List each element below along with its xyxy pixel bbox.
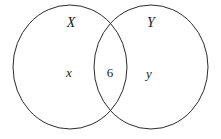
region-label-intersection: 6 <box>107 66 114 79</box>
set-label-y: Y <box>147 16 155 30</box>
set-label-x: X <box>67 16 76 30</box>
region-label-x-only: x <box>66 66 72 79</box>
region-label-y-only: y <box>146 67 152 80</box>
venn-diagram: X Y x 6 y <box>0 0 221 139</box>
